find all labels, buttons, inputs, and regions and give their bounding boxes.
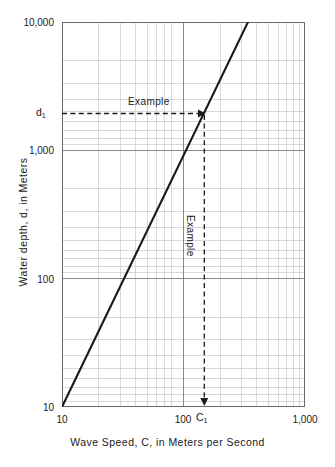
x-axis-tick-labels: 10 100 1,000: [0, 0, 335, 467]
example-vertical-label: Example: [185, 215, 196, 257]
x-axis-title: Wave Speed, C, in Meters per Second: [0, 436, 335, 448]
example-horizontal-label: Example: [128, 96, 170, 107]
x-tick-1000: 1,000: [292, 414, 317, 425]
x-tick-100: 100: [175, 414, 192, 425]
c1-axis-marker-label: C1: [196, 411, 208, 425]
y-axis-title: Water depth, d, in Meters: [17, 122, 29, 322]
x-tick-10: 10: [56, 414, 67, 425]
log-log-chart: 10,000 1,000 100 10 10 100 1,000 Wave Sp…: [0, 0, 335, 467]
d1-axis-marker-label: d1: [36, 106, 46, 120]
c1-subscript: 1: [204, 417, 208, 425]
c1-symbol: C: [196, 411, 204, 423]
d1-subscript: 1: [42, 112, 46, 120]
